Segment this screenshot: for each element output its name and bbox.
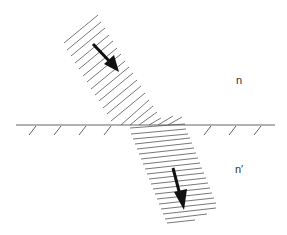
incident-beam-wavefronts (64, 15, 182, 125)
incident-arrow-icon (93, 44, 119, 72)
medium-label-bottom: n′ (235, 163, 243, 175)
medium-label-top: n (236, 74, 242, 86)
refracted-arrow-icon (173, 168, 187, 210)
refraction-diagram (0, 0, 287, 235)
